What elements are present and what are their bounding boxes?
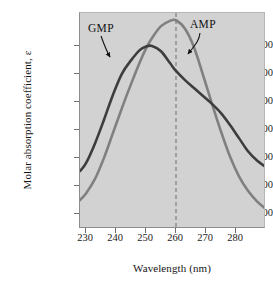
series-line-amp xyxy=(80,20,265,210)
figure-absorption-spectra: Molar absorption coefficient, ε 14,000 1… xyxy=(0,0,273,286)
x-axis-title: Wavelength (nm) xyxy=(79,262,265,274)
series-label-amp: AMP xyxy=(190,18,216,30)
plot-canvas xyxy=(80,13,265,228)
plot-area xyxy=(79,12,265,228)
series-label-gmp: GMP xyxy=(88,22,114,34)
series-line-gmp xyxy=(80,46,265,171)
x-tick-label-280: 280 xyxy=(215,232,255,243)
y-axis-title: Molar absorption coefficient, ε xyxy=(21,20,37,220)
